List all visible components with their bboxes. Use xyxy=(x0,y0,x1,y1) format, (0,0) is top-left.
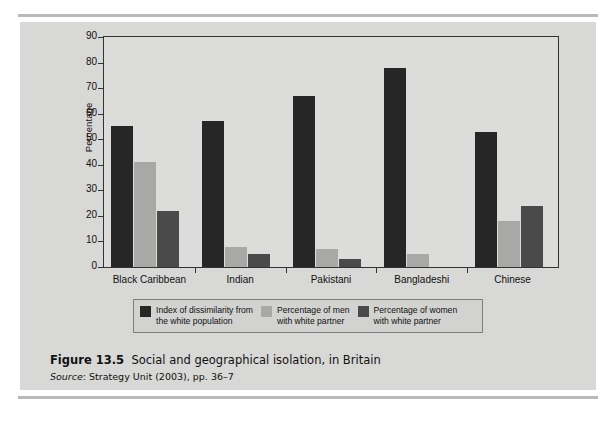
bar xyxy=(407,254,429,267)
bar-group xyxy=(286,37,377,267)
legend-label: Percentage of women with white partner xyxy=(374,305,458,327)
caption-title: Social and geographical isolation, in Br… xyxy=(131,353,380,367)
source-text: : Strategy Unit (2003), pp. 36–7 xyxy=(83,371,234,382)
bar xyxy=(134,162,156,267)
y-axis-tick-label: 0 xyxy=(71,261,97,271)
bar xyxy=(339,259,361,267)
y-axis-tick-label: 30 xyxy=(71,184,97,194)
bar xyxy=(384,68,406,267)
x-axis-tick-mark xyxy=(376,268,377,273)
bar xyxy=(157,211,179,267)
bar xyxy=(521,206,543,267)
x-axis-tick-label: Indian xyxy=(195,274,286,285)
legend-swatch-women-white-partner xyxy=(358,306,369,317)
page: Percentage 9080706050403020100 Black Car… xyxy=(0,0,616,423)
legend-label: Percentage of men with white partner xyxy=(277,305,350,327)
y-axis-tick-label: 40 xyxy=(71,159,97,169)
page-rule-bottom xyxy=(18,396,598,399)
legend-item: Index of dissimilarity from the white po… xyxy=(140,305,253,327)
bars-container xyxy=(104,37,558,267)
figure-caption: Figure 13.5 Social and geographical isol… xyxy=(50,352,570,382)
x-axis-tick-label: Chinese xyxy=(467,274,558,285)
legend-item: Percentage of women with white partner xyxy=(358,305,458,327)
x-axis-tick-label: Pakistani xyxy=(286,274,377,285)
bar-group xyxy=(104,37,195,267)
bar xyxy=(498,221,520,267)
bar-group xyxy=(195,37,286,267)
bar xyxy=(316,249,338,267)
y-axis-tick-label: 10 xyxy=(71,235,97,245)
legend-item: Percentage of men with white partner xyxy=(261,305,350,327)
x-axis-tick-mark xyxy=(286,268,287,273)
page-rule-top xyxy=(18,14,598,17)
y-axis-tick-label: 70 xyxy=(71,82,97,92)
y-axis-tick-label: 90 xyxy=(71,31,97,41)
bar xyxy=(225,247,247,267)
x-axis-tick-mark xyxy=(195,268,196,273)
y-axis-tick-label: 20 xyxy=(71,210,97,220)
figure-panel: Percentage 9080706050403020100 Black Car… xyxy=(20,22,596,390)
y-axis-tick-label: 80 xyxy=(71,57,97,67)
x-axis-tick-label: Bangladeshi xyxy=(376,274,467,285)
caption-source: Source: Strategy Unit (2003), pp. 36–7 xyxy=(50,371,570,382)
chart-area: Percentage 9080706050403020100 Black Car… xyxy=(69,36,559,281)
source-label: Source xyxy=(50,371,83,382)
x-axis-tick-mark xyxy=(467,268,468,273)
bar xyxy=(475,132,497,267)
chart-legend: Index of dissimilarity from the white po… xyxy=(133,299,483,333)
bar-group xyxy=(376,37,467,267)
bar xyxy=(293,96,315,267)
legend-swatch-men-white-partner xyxy=(261,306,272,317)
bar xyxy=(111,126,133,267)
x-axis-tick-label: Black Caribbean xyxy=(104,274,195,285)
legend-swatch-index-of-dissimilarity xyxy=(140,306,151,317)
y-axis-tick-label: 60 xyxy=(71,108,97,118)
legend-label: Index of dissimilarity from the white po… xyxy=(156,305,253,327)
bar xyxy=(248,254,270,267)
y-axis-tick-label: 50 xyxy=(71,133,97,143)
bar-group xyxy=(467,37,558,267)
caption-line: Figure 13.5 Social and geographical isol… xyxy=(50,352,570,368)
caption-figure-number: Figure 13.5 xyxy=(50,353,124,367)
bar xyxy=(202,121,224,267)
